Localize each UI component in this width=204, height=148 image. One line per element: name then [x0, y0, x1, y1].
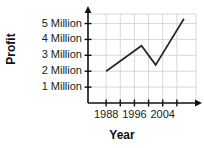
- gridlines: [88, 14, 196, 103]
- x-axis-tick-label: 2004: [148, 108, 178, 120]
- x-axis-tick-label: 1996: [119, 108, 149, 120]
- data-line-series: [106, 19, 184, 71]
- line-chart: Profit 1 Million2 Million3 Million4 Mill…: [0, 0, 204, 148]
- x-axis-tick-label: 1988: [91, 108, 121, 120]
- plot-area: [0, 0, 204, 148]
- x-axis-title: Year: [92, 128, 152, 142]
- axis-lines: [85, 6, 202, 106]
